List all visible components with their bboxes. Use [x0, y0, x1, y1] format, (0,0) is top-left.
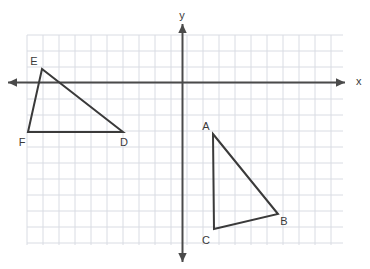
grid-lines: [27, 35, 343, 245]
vertex-label-b: B: [280, 215, 287, 227]
x-axis-label: x: [356, 75, 362, 87]
vertex-label-e: E: [30, 55, 37, 67]
vertex-label-c: C: [202, 234, 210, 246]
y-axis-top-arrow-icon: [178, 24, 186, 33]
y-axis-label: y: [179, 9, 185, 21]
y-axis-bottom-arrow-icon: [178, 253, 186, 262]
coordinate-plane-figure: ABCDEF x y: [0, 0, 370, 269]
plotted-shapes: [28, 69, 278, 229]
vertex-label-d: D: [120, 136, 128, 148]
triangle-abc: [213, 134, 278, 229]
x-axis-left-arrow-icon: [8, 78, 17, 86]
coordinate-plane-svg: ABCDEF x y: [0, 0, 370, 269]
vertex-label-a: A: [202, 120, 210, 132]
vertex-label-f: F: [19, 136, 26, 148]
x-axis-right-arrow-icon: [336, 78, 345, 86]
